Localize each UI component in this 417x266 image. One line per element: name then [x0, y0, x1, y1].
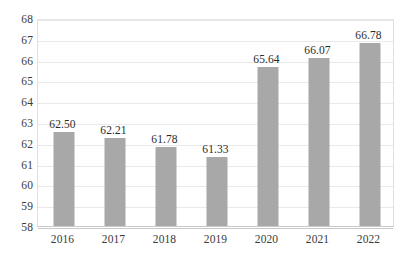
bar[interactable] — [155, 147, 176, 226]
bar-group — [89, 20, 140, 226]
bar-value-label: 61.78 — [136, 133, 194, 145]
bar-group — [140, 20, 191, 226]
bar-group — [344, 20, 395, 226]
y-axis-tick-label: 68 — [0, 13, 33, 25]
y-axis: 5859606162636465666768 — [0, 0, 33, 266]
y-axis-tick-label: 65 — [0, 75, 33, 87]
bar-value-label: 66.78 — [340, 29, 398, 41]
x-axis-tick-label: 2022 — [343, 232, 394, 246]
x-axis-tick-label: 2020 — [241, 232, 292, 246]
y-axis-tick-label: 63 — [0, 117, 33, 129]
bar-chart: 5859606162636465666768 20162017201820192… — [0, 0, 417, 266]
x-axis-tick-label: 2017 — [88, 232, 139, 246]
bar-value-label: 61.33 — [187, 143, 245, 155]
bar-group — [191, 20, 242, 226]
y-axis-tick-label: 64 — [0, 96, 33, 108]
bar-value-label: 66.07 — [289, 44, 347, 56]
axis-baseline — [38, 228, 393, 229]
bar[interactable] — [53, 132, 74, 226]
bar[interactable] — [359, 43, 380, 226]
bar[interactable] — [206, 157, 227, 226]
x-axis-tick-label: 2021 — [292, 232, 343, 246]
bar[interactable] — [104, 138, 125, 226]
x-axis-tick-label: 2016 — [37, 232, 88, 246]
bar[interactable] — [308, 58, 329, 226]
bar-value-label: 62.50 — [34, 118, 92, 130]
y-axis-tick-label: 61 — [0, 159, 33, 171]
y-axis-tick-label: 59 — [0, 200, 33, 212]
x-axis: 2016201720182019202020212022 — [37, 232, 394, 254]
y-axis-tick-label: 62 — [0, 138, 33, 150]
bar-group — [242, 20, 293, 226]
bar-value-label: 62.21 — [85, 124, 143, 136]
y-axis-tick-label: 58 — [0, 221, 33, 233]
x-axis-tick-label: 2019 — [190, 232, 241, 246]
bar-value-label: 65.64 — [238, 53, 296, 65]
y-axis-tick-label: 66 — [0, 55, 33, 67]
y-axis-tick-label: 60 — [0, 179, 33, 191]
bar[interactable] — [257, 67, 278, 226]
x-axis-tick-label: 2018 — [139, 232, 190, 246]
y-axis-tick-label: 67 — [0, 34, 33, 46]
